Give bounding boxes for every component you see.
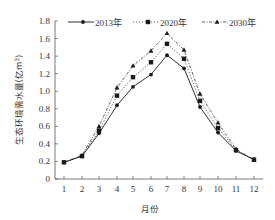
x-tick-label: 9 (198, 184, 203, 194)
data-point (198, 99, 202, 103)
data-point (149, 60, 153, 64)
legend-label: 2030年 (229, 17, 256, 28)
x-tick-label: 4 (115, 184, 120, 194)
legend-item-2013年: 2013年 (68, 17, 122, 28)
data-point (182, 57, 186, 61)
y-tick-label: 1.8 (39, 16, 51, 26)
data-point (198, 91, 203, 95)
legend-label: 2013年 (95, 17, 122, 28)
y-tick-label: 0.4 (39, 139, 51, 149)
water-demand-line-chart: 00.20.40.60.81.01.21.41.61.8 12345678910… (0, 0, 275, 220)
x-tick-label: 7 (165, 184, 170, 194)
legend-marker (81, 20, 85, 24)
x-tick-label: 3 (97, 184, 102, 194)
y-tick-label: 0.6 (39, 121, 51, 131)
data-point (198, 105, 202, 109)
y-axis-title-close: ) (14, 55, 24, 58)
x-tick-label: 2 (80, 184, 85, 194)
series-2013年 (62, 53, 256, 164)
x-tick-label: 5 (131, 184, 136, 194)
y-tick-label: 0 (46, 174, 51, 184)
y-tick-label: 1.4 (39, 51, 51, 61)
x-tick-label: 1 (62, 184, 67, 194)
legend: 2013年2020年2030年 (68, 17, 256, 28)
series-line (64, 33, 254, 162)
series-line (64, 44, 254, 163)
legend-marker (215, 19, 220, 23)
data-point (115, 93, 119, 97)
y-axis-title: 生态环境需水量(亿m3) (13, 55, 24, 146)
y-tick-label: 1.6 (39, 34, 51, 44)
data-point (182, 67, 186, 71)
legend-marker (146, 20, 150, 24)
y-axis-title-main: 生态环境需水量(亿m (14, 62, 24, 146)
data-point (131, 75, 135, 79)
x-tick-label: 8 (182, 184, 187, 194)
legend-label: 2020年 (160, 17, 187, 28)
x-tick-label: 12 (250, 184, 259, 194)
data-point (131, 63, 136, 67)
series-group (62, 31, 257, 165)
y-tick-label: 0.8 (39, 104, 51, 114)
data-point (216, 126, 220, 130)
data-point (149, 73, 153, 77)
series-line (64, 55, 254, 162)
data-point (165, 31, 170, 35)
x-axis-title: 月份 (141, 204, 159, 214)
data-point (115, 103, 119, 107)
data-point (216, 131, 220, 135)
data-point (216, 120, 221, 124)
legend-item-2030年: 2030年 (202, 17, 256, 28)
legend-item-2020年: 2020年 (133, 17, 187, 28)
y-tick-label: 1.2 (39, 69, 50, 79)
data-point (131, 85, 135, 89)
axes (55, 21, 263, 179)
series-2020年 (62, 42, 256, 165)
x-tick-label: 11 (232, 184, 241, 194)
x-tick-label: 6 (149, 184, 154, 194)
y-tick-label: 0.2 (39, 156, 50, 166)
data-point (165, 53, 169, 57)
data-point (97, 124, 102, 128)
data-point (165, 42, 169, 46)
y-tick-label: 1.0 (39, 86, 51, 96)
x-tick-label: 10 (214, 184, 224, 194)
